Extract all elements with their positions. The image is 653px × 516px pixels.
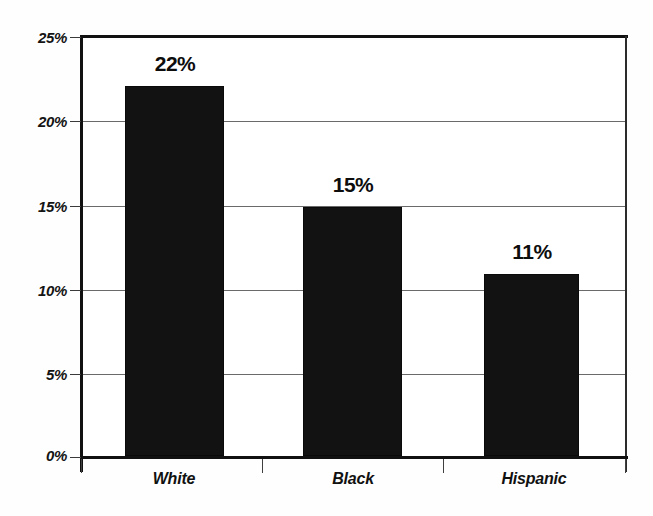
x-axis-line [81, 456, 628, 459]
bar-hispanic [484, 274, 579, 456]
x-tick-1 [262, 459, 263, 473]
bar-black [303, 207, 402, 456]
y-tick-15 [70, 206, 81, 207]
y-tick-10 [70, 290, 81, 291]
x-axis-label-black: Black [332, 470, 374, 488]
bar-value-hispanic: 11% [512, 240, 551, 264]
y-tick-0 [70, 457, 81, 458]
x-axis-label-white: White [153, 470, 196, 488]
y-axis-label-0: 0% [46, 447, 67, 464]
y-axis-label-20: 20% [38, 113, 67, 130]
bar-value-white: 22% [155, 52, 196, 76]
y-axis-label-25: 25% [38, 29, 67, 46]
x-tick-end [625, 459, 626, 473]
y-axis-label-5: 5% [46, 366, 67, 383]
y-tick-25 [70, 37, 81, 38]
x-axis-label-hispanic: Hispanic [501, 470, 566, 488]
y-axis-label-10: 10% [38, 282, 67, 299]
bar-white [125, 86, 224, 456]
bar-value-black: 15% [333, 173, 374, 197]
y-tick-20 [70, 121, 81, 122]
y-axis-line [80, 35, 83, 472]
y-axis-label-15: 15% [38, 198, 67, 215]
plot-border-top [81, 35, 628, 38]
x-tick-start [81, 459, 82, 473]
x-tick-2 [443, 459, 444, 473]
bar-chart: 25% 20% 15% 10% 5% 0% 22% 15% 11% White … [0, 0, 653, 516]
plot-border-right [625, 36, 627, 472]
y-tick-5 [70, 374, 81, 375]
